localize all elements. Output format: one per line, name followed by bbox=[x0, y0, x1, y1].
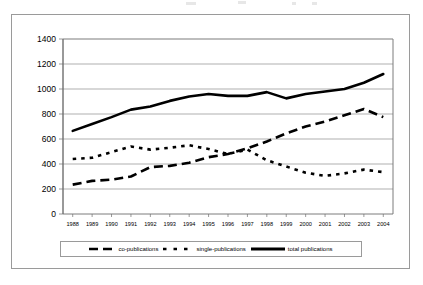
legend-item-total-publications: total publications bbox=[251, 246, 333, 252]
x-axis-tick-label: 2004 bbox=[377, 221, 389, 227]
x-axis-tick-label: 2002 bbox=[338, 221, 350, 227]
x-axis-tick-label: 1995 bbox=[202, 221, 214, 227]
legend-swatch-long-dash bbox=[89, 246, 115, 252]
x-axis-tick-label: 2001 bbox=[319, 221, 331, 227]
y-axis-tick-label: 400 bbox=[42, 159, 56, 169]
chart-plot-area: 0200400600800100012001400 19881989199019… bbox=[12, 15, 411, 270]
x-axis-tick-label: 1997 bbox=[241, 221, 253, 227]
legend-label-single-publications: single-publications bbox=[196, 246, 245, 252]
axis-ticks bbox=[59, 39, 383, 217]
x-axis-tick-label: 1989 bbox=[86, 221, 98, 227]
y-axis-tick-label: 1200 bbox=[37, 59, 56, 69]
x-axis-tick-label: 1988 bbox=[66, 221, 78, 227]
x-axis-tick-label: 1999 bbox=[280, 221, 292, 227]
series-line-total-publications bbox=[73, 74, 384, 131]
x-axis-tick-label: 1998 bbox=[261, 221, 273, 227]
x-axis-tick-label: 1994 bbox=[183, 221, 195, 227]
chart-legend: co-publications single-publications tota… bbox=[60, 241, 362, 257]
y-axis-tick-label: 0 bbox=[51, 209, 56, 219]
legend-swatch-short-dash bbox=[163, 246, 193, 252]
legend-item-co-publications: co-publications bbox=[89, 246, 158, 252]
x-axis-labels: 1988198919901991199219931994199519961997… bbox=[66, 221, 389, 227]
x-axis-tick-label: 1990 bbox=[105, 221, 117, 227]
y-axis-tick-label: 600 bbox=[42, 134, 56, 144]
x-axis-tick-label: 2003 bbox=[358, 221, 370, 227]
y-axis-tick-label: 200 bbox=[42, 184, 56, 194]
x-axis-tick-label: 1993 bbox=[164, 221, 176, 227]
x-axis-tick-label: 1991 bbox=[125, 221, 137, 227]
legend-swatch-solid bbox=[251, 246, 285, 252]
y-axis-tick-label: 800 bbox=[42, 109, 56, 119]
x-axis-tick-label: 1992 bbox=[144, 221, 156, 227]
chart-frame: 0200400600800100012001400 19881989199019… bbox=[11, 14, 410, 269]
legend-label-co-publications: co-publications bbox=[118, 246, 158, 252]
series-line-single-publications bbox=[73, 145, 384, 176]
y-axis-tick-label: 1400 bbox=[37, 34, 56, 44]
publications-line-chart: 0200400600800100012001400 19881989199019… bbox=[12, 15, 411, 270]
legend-item-single-publications: single-publications bbox=[163, 246, 245, 252]
y-axis-labels: 0200400600800100012001400 bbox=[37, 34, 56, 219]
y-axis-tick-label: 1000 bbox=[37, 84, 56, 94]
x-axis-tick-label: 2000 bbox=[299, 221, 311, 227]
gridlines bbox=[63, 39, 393, 214]
legend-label-total-publications: total publications bbox=[288, 246, 333, 252]
x-axis-tick-label: 1996 bbox=[222, 221, 234, 227]
